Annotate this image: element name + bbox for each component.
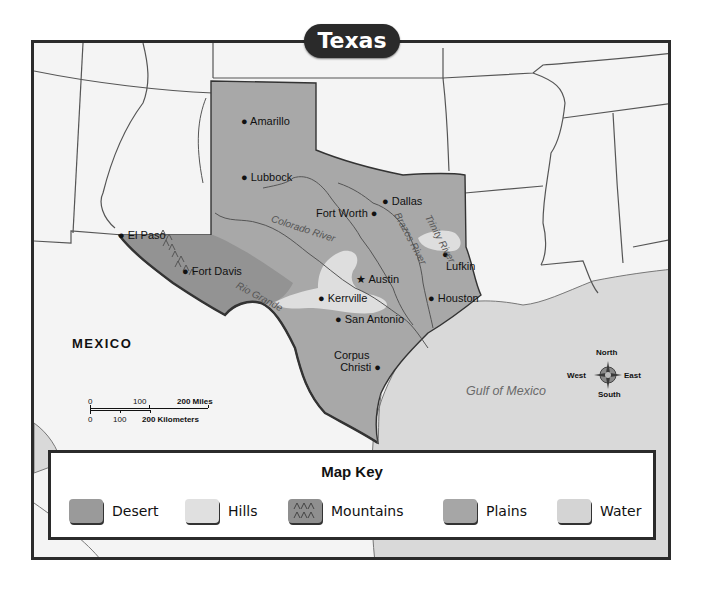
legend-item-hills: Hills	[185, 499, 258, 523]
scale-km-0: 0	[88, 415, 92, 424]
legend-item-mountains: Mountains	[288, 499, 404, 523]
city-el-paso: ● El Paso	[118, 229, 166, 241]
scale-miles-0: 0	[88, 397, 92, 406]
plains-swatch-icon	[443, 499, 477, 523]
city-corpus-christi: Corpus Christi ●	[334, 349, 381, 373]
compass-icon	[594, 361, 622, 389]
map-key-title: Map Key	[51, 463, 653, 480]
water-swatch-icon	[557, 499, 591, 523]
legend-item-plains: Plains	[443, 499, 527, 523]
scale-miles-100: 100	[133, 397, 146, 406]
legend-item-desert: Desert	[69, 499, 159, 523]
region-label-gulf: Gulf of Mexico	[466, 384, 546, 398]
city-dallas: ● Dallas	[382, 195, 422, 207]
city-amarillo: ● Amarillo	[241, 115, 290, 127]
compass-south: South	[598, 390, 621, 399]
scale-km-100: 100	[113, 415, 126, 424]
region-label-mexico: MEXICO	[72, 336, 132, 351]
compass-west: West	[567, 371, 586, 380]
city-austin: ★ Austin	[356, 273, 399, 285]
city-san-antonio: ● San Antonio	[335, 313, 404, 325]
city-fort-davis: ● Fort Davis	[182, 265, 242, 277]
desert-swatch-icon	[69, 499, 103, 523]
map-key: Map Key Desert Hills Mountains Plains Wa…	[48, 450, 656, 540]
city-kerrville: ● Kerrville	[318, 292, 367, 304]
hills-swatch-icon	[185, 499, 219, 523]
scale-miles-200: 200 Miles	[177, 397, 213, 406]
city-houston: ● Houston	[428, 292, 479, 304]
compass-north: North	[596, 348, 617, 357]
map-title: Texas	[304, 24, 400, 58]
scale-km-200: 200 Kilometers	[142, 415, 199, 424]
compass-east: East	[624, 371, 641, 380]
city-lubbock: ● Lubbock	[241, 171, 292, 183]
city-fort-worth: Fort Worth ●	[316, 207, 377, 219]
mountains-swatch-icon	[288, 499, 322, 523]
legend-item-water: Water	[557, 499, 641, 523]
